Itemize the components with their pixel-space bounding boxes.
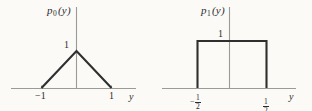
x-tick-label-right-p1-denominator: 2 <box>263 107 269 111</box>
function-label-p0: p0(y) <box>47 5 71 18</box>
height-label-p1: 1 <box>218 29 223 39</box>
x-axis-label-p1: y <box>289 92 293 102</box>
plot-p0: p0(y) 1 −1 1 y <box>0 0 156 111</box>
x-tick-label-right-p1: 1 2 <box>263 91 269 111</box>
x-tick-label-left-p1-frac: 1 2 <box>195 94 201 111</box>
x-tick-label-right-p1-frac: 1 2 <box>263 98 269 111</box>
x-tick-label-left-p1-fraction: − 1 2 <box>190 94 201 111</box>
x-axis-label-p0: y <box>129 92 133 102</box>
plot-p1: p1(y) 1 − 1 2 1 2 y <box>156 0 312 111</box>
x-tick-label-right-p1-fraction: 1 2 <box>263 98 269 111</box>
function-label-p1-base: p <box>201 4 207 16</box>
function-label-p1-arg: (y) <box>211 4 225 16</box>
x-tick-label-left-p1: − 1 2 <box>190 91 201 110</box>
function-label-p1: p1(y) <box>201 5 225 18</box>
height-label-p0: 1 <box>64 40 69 50</box>
figure-container: p0(y) 1 −1 1 y p1(y) 1 − <box>0 0 312 111</box>
x-tick-label-right-p0: 1 <box>109 91 114 101</box>
function-label-p0-arg: (y) <box>57 4 71 16</box>
x-tick-label-left-p0: −1 <box>35 91 46 101</box>
x-tick-label-left-p1-denominator: 2 <box>195 103 201 111</box>
function-label-p0-base: p <box>47 4 53 16</box>
uniform-density-curve <box>198 41 267 88</box>
